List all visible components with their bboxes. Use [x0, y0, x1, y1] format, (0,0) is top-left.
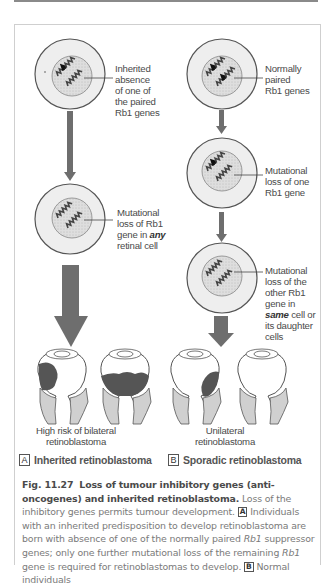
gene-name: Rb1	[282, 547, 300, 558]
arrow-right-1	[216, 110, 227, 134]
label-mutational-loss-other: Mutational loss of the other Rb1 gene in…	[265, 265, 315, 342]
label-line: gene in any	[117, 229, 165, 240]
legend-b: B Sporadic retinoblastoma	[168, 454, 302, 466]
arrow-left-large	[54, 265, 88, 347]
label-line: of one of	[115, 85, 160, 96]
caption-panel-a: A	[238, 507, 248, 517]
label-line: same cell or	[265, 309, 315, 320]
label-normally-paired: Normally paired Rb1 genes	[265, 63, 310, 96]
eye-left-a	[30, 344, 88, 424]
cell-inherited-absence	[35, 39, 113, 109]
caption-text: gene is required for retinoblastomas to …	[22, 561, 244, 572]
label-line: the paired	[115, 96, 160, 107]
cell-mutational-loss-other	[187, 243, 263, 313]
arrow-left-1	[64, 111, 76, 181]
panel-letter-b: B	[168, 454, 179, 466]
eye-right-a	[171, 349, 221, 424]
eye-left-b	[101, 349, 151, 424]
legend-a: A Inherited retinoblastoma	[19, 454, 152, 466]
label-mutational-loss-any: Mutational loss of Rb1 gene in any retin…	[117, 207, 165, 251]
label-line: Rb1 genes	[265, 85, 310, 96]
figure-number: Fig. 11.27	[22, 479, 73, 490]
label-line: Mutational	[265, 165, 309, 176]
label-line: Normally	[265, 63, 310, 74]
figure-caption: Fig. 11.27Loss of tumour inhibitory gene…	[22, 478, 320, 587]
label-line: retinoblastoma	[180, 436, 270, 447]
legend-a-text: Inherited retinoblastoma	[34, 454, 152, 466]
label-line: retinoblastoma	[28, 436, 124, 447]
label-line: absence	[115, 74, 160, 85]
label-line: its daughter	[265, 320, 315, 331]
caption-panel-b: B	[244, 562, 254, 572]
label-line: retinal cell	[117, 240, 165, 251]
label-line: Rb1 genes	[115, 107, 160, 118]
label-line: loss of Rb1	[117, 218, 165, 229]
outcome-unilateral: Unilateral retinoblastoma	[180, 425, 270, 447]
panel-letter-a: A	[19, 454, 30, 466]
outcome-bilateral: High risk of bilateral retinoblastoma	[28, 425, 124, 447]
cell-mutational-loss-any	[35, 184, 113, 254]
emphasis-any: any	[150, 229, 166, 240]
label-line: other Rb1	[265, 287, 315, 298]
label-line: Mutational	[265, 265, 315, 276]
emphasis-same: same	[265, 309, 289, 320]
label-line: High risk of bilateral	[28, 425, 124, 436]
label-line: Rb1 gene	[265, 187, 309, 198]
legend-b-text: Sporadic retinoblastoma	[183, 454, 302, 466]
arrow-right-2	[216, 212, 227, 242]
label-line: loss of the	[265, 276, 315, 287]
eye-right-b	[238, 349, 288, 424]
label-line: paired	[265, 74, 310, 85]
cell-normally-paired	[187, 39, 263, 109]
label-text: cell or	[289, 309, 316, 320]
label-line: gene in	[265, 298, 315, 309]
label-line: Mutational	[117, 207, 165, 218]
label-line: loss of one	[265, 176, 309, 187]
label-line: cells	[265, 331, 315, 342]
cell-mutational-loss-one	[187, 138, 263, 208]
label-mutational-loss-one: Mutational loss of one Rb1 gene	[265, 165, 309, 198]
label-line: Inherited	[115, 63, 160, 74]
label-line: Unilateral	[180, 425, 270, 436]
label-text: gene in	[117, 229, 150, 240]
label-inherited-absence: Inherited absence of one of the paired R…	[115, 63, 160, 118]
arrow-right-large	[208, 316, 234, 347]
gene-name: Rb1	[244, 533, 262, 544]
